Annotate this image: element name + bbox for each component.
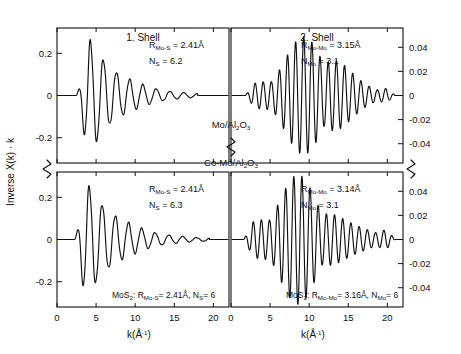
x-tick-label: 5	[93, 312, 98, 323]
y-tick-label: -0.02	[409, 258, 431, 269]
y-tick-label: -0.04	[409, 282, 431, 293]
annotation-R: RMo-Mo = 3.14Å	[301, 184, 361, 195]
panel-footnote: MoS2: RMo-S= 2.41Å, NS= 6	[112, 290, 215, 301]
annotation-N: NS = 6.3	[149, 200, 182, 211]
y-tick-label: -0.2	[36, 276, 52, 287]
data-curve	[57, 186, 229, 286]
column-title: 1. Shell	[126, 32, 159, 43]
y-axis-break-icon	[43, 160, 51, 178]
y-tick-label: 0	[47, 90, 52, 101]
y-tick-label: 0.04	[409, 186, 428, 197]
y-tick-label: -0.04	[409, 138, 431, 149]
panel-bottom-right: 0.040.020-0.02-0.04RMo-Mo = 3.14ÅNMo = 3…	[231, 172, 431, 307]
sample-label-bottom: Co-Mo/Al2O3	[204, 157, 258, 169]
y-tick-label: 0	[409, 90, 414, 101]
panel-bottom-left: 0.20-0.2RMo-S = 2.41ÅNS = 6.3MoS2: RMo-S…	[36, 172, 229, 307]
panel-top-left: 0.20-0.2RMo-S = 2.41ÅNS = 6.2	[36, 28, 229, 163]
y-tick-label: 0.02	[409, 210, 428, 221]
x-tick-label: 20	[382, 312, 393, 323]
sample-label-top: Mo/Al2O3	[212, 119, 251, 131]
y-tick-label: 0.2	[39, 48, 52, 59]
annotation-N: NMo = 3.1	[301, 200, 339, 211]
x-tick-label: 15	[343, 312, 354, 323]
y-tick-label: -0.02	[409, 114, 431, 125]
x-tick-label: 5	[267, 312, 272, 323]
figure-canvas: 0.20-0.2RMo-S = 2.41ÅNS = 6.20.040.020-0…	[0, 0, 461, 354]
x-axis-title: k(Å-1)	[301, 328, 325, 340]
x-tick-label: 10	[304, 312, 315, 323]
x-tick-label: 10	[130, 312, 141, 323]
annotation-R: RMo-S = 2.41Å	[149, 184, 204, 195]
data-curve	[57, 40, 229, 142]
data-curve	[231, 37, 403, 154]
annotation-N: NS = 6.2	[149, 56, 182, 67]
y-tick-label: -0.2	[36, 132, 52, 143]
y-tick-label: 0	[47, 234, 52, 245]
y-tick-label: 0	[409, 234, 414, 245]
y-axis-break-icon-right	[407, 160, 415, 178]
x-tick-label: 0	[228, 312, 233, 323]
x-tick-label: 20	[208, 312, 219, 323]
panel-top-right: 0.040.020-0.02-0.04RMo-Mo = 3.15ÅNMo = 3…	[231, 28, 431, 163]
x-tick-label: 0	[54, 312, 59, 323]
data-curve	[231, 176, 403, 304]
annotation-N: NMo = 3.1	[301, 56, 339, 67]
x-axis-title: k(Å-1)	[127, 328, 151, 340]
column-title: 2. Shell	[300, 32, 333, 43]
x-tick-label: 15	[169, 312, 180, 323]
y-axis-title: Inverse X(k) · k	[5, 137, 16, 206]
panel-footnote: MoS2: RMo-Mo= 3.16Å, NMo= 6	[286, 290, 398, 301]
exafs-figure: 0.20-0.2RMo-S = 2.41ÅNS = 6.20.040.020-0…	[0, 0, 461, 354]
y-tick-label: 0.2	[39, 192, 52, 203]
y-tick-label: 0.04	[409, 42, 428, 53]
y-tick-label: 0.02	[409, 66, 428, 77]
